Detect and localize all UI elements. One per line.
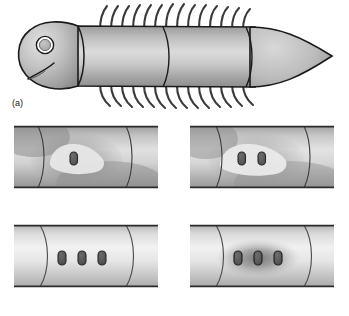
- panel-e-pore-1: [234, 251, 242, 265]
- panel-d-closeup-three-pores: (d): [14, 222, 158, 292]
- panel-e-drawing: [190, 222, 334, 292]
- organism-tail: [250, 27, 332, 87]
- panel-d-pore-1: [58, 251, 66, 265]
- panel-d-pore-3: [98, 251, 106, 265]
- panel-e-pore-2: [254, 251, 262, 265]
- panel-d-pore-2: [78, 251, 86, 265]
- panel-e-closeup-three-pores-halo: (e): [190, 222, 334, 292]
- panel-c-closeup-two-pores: (c): [190, 123, 334, 193]
- panel-c-pore-2: [258, 152, 266, 165]
- panel-a-whole-organism: (a): [0, 0, 349, 115]
- panel-c-drawing: [190, 123, 334, 193]
- panel-label-a: (a): [12, 99, 23, 108]
- panel-e-pore-3: [274, 251, 282, 265]
- organism-drawing: [0, 0, 349, 115]
- panel-c-pore-1: [238, 152, 246, 165]
- panel-b-closeup-one-pore: (b): [14, 123, 158, 193]
- eye: [36, 36, 53, 53]
- panel-b-drawing: [14, 123, 158, 193]
- organism-trunk: [70, 26, 255, 87]
- panel-d-drawing: [14, 222, 158, 292]
- figure-panel-group: (a): [0, 0, 349, 316]
- panel-b-pore: [70, 152, 78, 165]
